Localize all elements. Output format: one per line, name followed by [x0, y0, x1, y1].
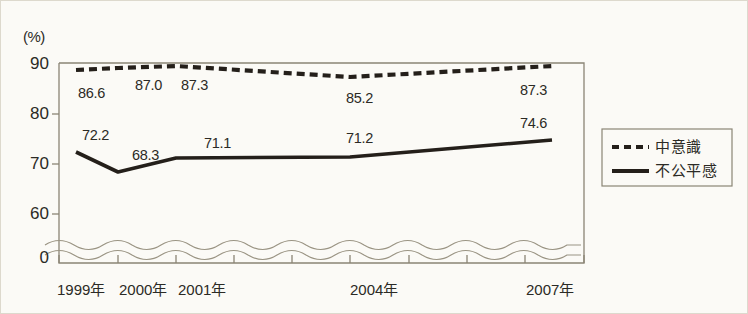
- y-axis-ticks: [52, 114, 59, 214]
- data-label-fukouheikan-2007: 74.6: [520, 116, 547, 131]
- line-chart-canvas: [1, 1, 748, 314]
- data-label-fukouheikan-2001: 71.1: [204, 136, 231, 151]
- x-tick-label-2004: 2004年: [350, 282, 398, 297]
- chart-figure: (%) 90 80 70 60 0 1999年 2000年 2001年 2004…: [0, 0, 748, 314]
- data-label-chuuishiki-1999: 86.6: [78, 86, 105, 101]
- plot-frame: [59, 63, 584, 263]
- x-tick-label-1999: 1999年: [57, 282, 105, 297]
- x-tick-label-2007: 2007年: [526, 282, 574, 297]
- x-tick-label-2001: 2001年: [178, 282, 226, 297]
- data-label-chuuishiki-2000: 87.0: [135, 78, 162, 93]
- legend-item-label-fukouheikan: 不公平感: [655, 163, 717, 178]
- data-label-fukouheikan-1999: 72.2: [82, 128, 109, 143]
- y-tick-label-70: 70: [15, 155, 49, 172]
- data-label-chuuishiki-2001: 87.3: [181, 78, 208, 93]
- data-label-chuuishiki-2007: 87.3: [520, 83, 547, 98]
- data-label-chuuishiki-2004: 85.2: [346, 91, 373, 106]
- y-tick-label-60: 60: [15, 205, 49, 222]
- y-tick-label-90: 90: [15, 55, 49, 72]
- data-label-fukouheikan-2000: 68.3: [132, 148, 159, 163]
- y-axis-unit-label: (%): [23, 29, 45, 44]
- axis-break-squiggle: [45, 241, 581, 260]
- x-tick-label-2000: 2000年: [119, 282, 167, 297]
- series-line-dashed: [76, 66, 552, 77]
- y-tick-label-80: 80: [15, 105, 49, 122]
- y-tick-label-0: 0: [15, 249, 49, 266]
- legend-item-label-chuuishiki: 中意識: [655, 139, 702, 154]
- data-label-fukouheikan-2004: 71.2: [346, 131, 373, 146]
